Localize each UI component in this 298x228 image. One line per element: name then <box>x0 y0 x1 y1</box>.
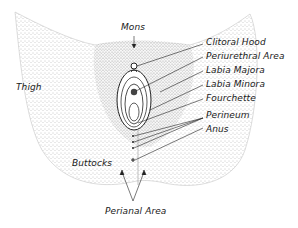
label-clitoral-hood: Clitoral Hood <box>206 37 266 47</box>
label-thigh: Thigh <box>16 82 42 92</box>
label-mons: Mons <box>121 22 145 32</box>
label-labia-minora: Labia Minora <box>206 79 265 89</box>
illustration <box>0 0 298 228</box>
label-perineum: Perineum <box>206 110 250 120</box>
label-fourchette: Fourchette <box>206 93 256 103</box>
anatomy-diagram: Mons Clitoral Hood Periurethral Area Lab… <box>0 0 298 228</box>
clitoral-hood-shape <box>131 63 137 69</box>
label-anus: Anus <box>206 124 229 134</box>
label-periurethral-area: Periurethral Area <box>206 51 285 61</box>
label-perianal-area: Perianal Area <box>105 206 166 216</box>
label-labia-majora: Labia Majora <box>206 65 265 75</box>
label-buttocks: Buttocks <box>72 158 112 168</box>
